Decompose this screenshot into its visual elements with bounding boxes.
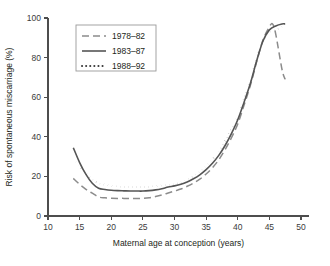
x-axis-title: Maternal age at conception (years) [113, 238, 245, 248]
y-tick-label: 40 [32, 132, 42, 142]
miscarriage-risk-line-chart: 020406080100 101520253035404550 Maternal… [0, 0, 330, 266]
x-tick-label: 40 [233, 222, 243, 232]
y-tick-label: 100 [27, 13, 41, 23]
x-tick-label: 20 [107, 222, 117, 232]
y-tick-label: 60 [32, 92, 42, 102]
y-tick-label: 20 [32, 171, 42, 181]
y-axis-title: Risk of spontaneous miscarriage (%) [4, 47, 14, 186]
x-tick-label: 10 [43, 222, 53, 232]
x-tick-label: 30 [170, 222, 180, 232]
chart-legend[interactable]: 1978–821983–871988–92 [76, 25, 156, 71]
x-tick-label: 50 [296, 222, 306, 232]
chart-figure: 020406080100 101520253035404550 Maternal… [0, 0, 330, 266]
y-tick-label: 80 [32, 53, 42, 63]
x-tick-label: 15 [75, 222, 85, 232]
y-axis-ticks: 020406080100 [27, 13, 48, 221]
legend-label: 1978–82 [112, 31, 145, 41]
x-axis-ticks: 101520253035404550 [43, 216, 306, 232]
axis-group: 020406080100 101520253035404550 [27, 13, 309, 232]
x-tick-label: 45 [265, 222, 275, 232]
x-tick-label: 35 [201, 222, 211, 232]
x-tick-label: 25 [138, 222, 148, 232]
y-tick-label: 0 [36, 211, 41, 221]
legend-label: 1983–87 [112, 46, 145, 56]
legend-label: 1988–92 [112, 61, 145, 71]
